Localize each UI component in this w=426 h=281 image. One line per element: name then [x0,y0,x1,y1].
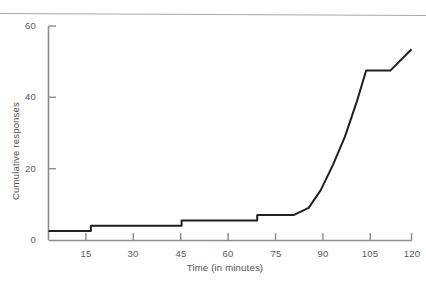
y-tick-label-0: 0 [14,234,36,245]
cumulative-response-curve [49,49,412,231]
x-tick-label-60: 60 [213,248,243,259]
plot-area [0,0,426,281]
x-tick-label-75: 75 [261,248,291,259]
x-tick-label-105: 105 [355,248,385,259]
cumulative-response-chart: 60 40 20 0 15 30 45 60 75 90 105 120 Tim… [0,0,426,281]
x-tick-label-15: 15 [71,248,101,259]
y-tick-label-60: 60 [14,20,36,31]
x-tick-label-90: 90 [308,248,338,259]
x-tick-marks [86,233,412,241]
y-axis-title: Cumulative responses [10,102,21,200]
x-axis-title: Time (in minutes) [160,262,290,273]
x-tick-label-120: 120 [397,248,426,259]
x-tick-label-30: 30 [118,248,148,259]
x-tick-label-45: 45 [166,248,196,259]
y-tick-marks [49,26,57,169]
y-tick-label-40: 40 [14,91,36,102]
